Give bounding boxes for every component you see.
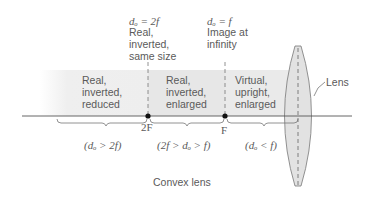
marker-f-description: Image at infinity (207, 26, 248, 50)
point-2f-label: 2F (141, 121, 153, 133)
brace-2f-to-f (150, 119, 224, 126)
region-2f-to-f-description: Real, inverted, enlarged (166, 74, 207, 110)
lens-label: Lens (326, 76, 349, 88)
point-f-label: F (221, 124, 227, 136)
convex-lens-diagram: dₒ = 2f Real, inverted, same size dₒ = f… (0, 0, 371, 208)
region-beyond-2f-description: Real, inverted, reduced (82, 74, 122, 110)
diagram-caption: Convex lens (153, 176, 211, 188)
lens-leader-line (314, 82, 325, 96)
region-inside-f-description: Virtual, upright, enlarged (235, 74, 276, 110)
point-f-dot (222, 113, 227, 118)
marker-2f-description: Real, inverted, same size (129, 26, 176, 62)
region-beyond-2f-condition: (dₒ > 2f) (84, 139, 121, 151)
brace-beyond-2f (57, 119, 147, 126)
region-inside-f-condition: (dₒ < f) (245, 139, 277, 151)
region-2f-to-f-condition: (2f > dₒ > f) (157, 139, 210, 151)
point-2f-dot (145, 113, 150, 118)
